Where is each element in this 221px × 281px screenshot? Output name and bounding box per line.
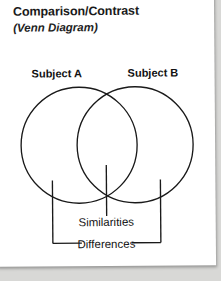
- subject-b-circle: [77, 86, 194, 203]
- similarities-label: Similarities: [0, 215, 216, 229]
- differences-label: Differences: [0, 237, 216, 251]
- subject-a-circle: [21, 87, 138, 204]
- worksheet-page: Comparison/Contrast (Venn Diagram) Subje…: [0, 0, 216, 267]
- page-content: Comparison/Contrast (Venn Diagram) Subje…: [0, 0, 216, 267]
- screenshot-root: Comparison/Contrast (Venn Diagram) Subje…: [0, 0, 221, 281]
